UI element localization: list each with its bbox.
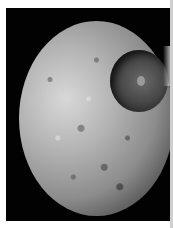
large-crater xyxy=(110,50,168,112)
crater-texture xyxy=(19,21,171,216)
right-edge-strip xyxy=(170,0,173,228)
central-peak xyxy=(137,76,145,86)
moon-photograph xyxy=(6,8,171,221)
moon-disc xyxy=(19,21,171,216)
